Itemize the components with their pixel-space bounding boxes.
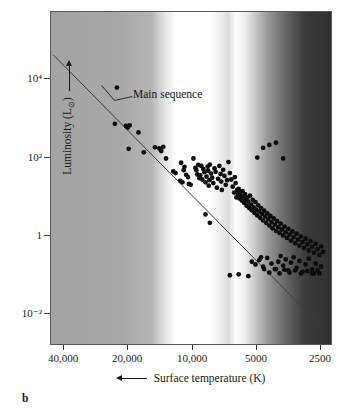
- x-axis-tick: [256, 345, 257, 350]
- x-axis-tick-label: 20,000: [112, 352, 142, 364]
- star-data-point: [159, 149, 164, 154]
- star-data-point: [274, 140, 279, 145]
- star-data-point: [233, 181, 238, 186]
- star-data-point: [227, 171, 232, 176]
- star-data-point: [211, 181, 216, 186]
- star-data-point: [233, 175, 238, 180]
- star-data-point: [289, 260, 294, 265]
- y-axis-tick: [44, 78, 50, 79]
- arrow-up-icon: [69, 61, 70, 91]
- star-data-point: [272, 267, 277, 272]
- star-data-point: [207, 162, 212, 167]
- star-data-point: [286, 226, 291, 231]
- y-axis-tick: [44, 157, 50, 158]
- x-axis-title-group: Surface temperature (K): [50, 372, 332, 384]
- star-data-point: [191, 156, 196, 161]
- star-data-point: [299, 234, 304, 239]
- main-sequence-annotation-label: Main sequence: [133, 88, 202, 100]
- x-axis-tick-label: 40,000: [48, 352, 78, 364]
- hr-diagram-figure: 10⁴10²110⁻² Luminosity (L⊙) 40,00020,000…: [0, 0, 348, 411]
- star-data-point: [317, 253, 322, 258]
- star-data-point: [294, 231, 299, 236]
- star-data-point: [282, 267, 287, 272]
- star-data-point: [259, 255, 264, 260]
- star-data-point: [179, 160, 184, 165]
- star-data-point: [127, 123, 132, 128]
- star-data-point: [312, 250, 317, 255]
- star-data-point: [115, 85, 120, 90]
- star-data-point: [276, 259, 281, 264]
- star-data-point: [198, 173, 203, 178]
- plot-svg: [51, 12, 331, 344]
- star-data-point: [310, 267, 315, 272]
- star-data-point: [253, 262, 258, 267]
- star-data-point: [281, 156, 286, 161]
- star-data-point: [290, 229, 295, 234]
- star-data-point: [313, 241, 318, 246]
- star-data-point: [219, 179, 224, 184]
- star-data-point: [217, 164, 222, 169]
- star-data-point: [303, 262, 308, 267]
- star-data-point: [152, 145, 157, 150]
- star-data-point: [203, 212, 208, 217]
- star-data-point: [173, 171, 178, 176]
- star-data-point: [319, 264, 324, 269]
- star-data-point: [221, 167, 226, 172]
- y-axis-title-group: Luminosity (L⊙): [61, 48, 77, 188]
- star-data-point: [315, 268, 320, 273]
- star-data-point: [281, 263, 286, 268]
- star-data-point: [310, 271, 315, 276]
- star-data-point: [302, 246, 307, 251]
- star-data-point: [267, 270, 272, 275]
- star-data-point: [164, 156, 169, 161]
- star-data-point: [287, 270, 292, 275]
- star-data-point: [112, 121, 117, 126]
- star-data-point: [305, 269, 310, 274]
- star-data-point: [299, 271, 304, 276]
- star-data-point: [267, 143, 272, 148]
- solar-symbol: ⊙: [68, 101, 77, 108]
- star-data-point: [227, 273, 232, 278]
- star-data-point: [236, 272, 241, 277]
- star-data-point: [277, 271, 282, 276]
- y-axis-title: Luminosity (L⊙): [61, 97, 76, 175]
- star-data-point: [226, 160, 231, 165]
- star-data-point: [293, 268, 298, 273]
- star-data-point: [161, 144, 166, 149]
- star-data-point: [283, 257, 288, 262]
- star-data-point: [278, 254, 283, 259]
- x-axis-tick-label: 10,000: [177, 352, 207, 364]
- star-data-point: [180, 180, 185, 185]
- star-data-point: [262, 267, 267, 272]
- star-data-point: [194, 168, 199, 173]
- x-axis-tick: [192, 345, 193, 350]
- star-data-point: [306, 256, 311, 261]
- star-data-point: [136, 130, 141, 135]
- star-data-point: [188, 182, 193, 187]
- star-data-point: [206, 183, 211, 188]
- star-data-point: [219, 188, 224, 193]
- star-data-point: [181, 168, 186, 173]
- star-data-point: [303, 236, 308, 241]
- star-data-point: [141, 150, 146, 155]
- star-data-point: [213, 169, 218, 174]
- star-points-group: [112, 85, 325, 278]
- y-axis-tick-label: 1: [0, 229, 42, 241]
- star-data-point: [210, 175, 215, 180]
- y-axis-tick-label: 10⁴: [0, 72, 42, 84]
- star-data-point: [321, 249, 326, 254]
- x-axis-tick: [63, 345, 64, 350]
- star-data-point: [261, 145, 266, 150]
- star-data-point: [297, 259, 302, 264]
- star-data-point: [209, 171, 214, 176]
- star-data-point: [222, 174, 227, 179]
- arrow-left-icon: [117, 378, 147, 379]
- y-axis-tick-label: 10⁻²: [0, 307, 42, 320]
- x-axis-tick: [127, 345, 128, 350]
- star-data-point: [248, 193, 253, 198]
- y-axis-tick: [44, 235, 50, 236]
- star-data-point: [265, 256, 270, 261]
- star-data-point: [223, 182, 228, 187]
- star-data-point: [308, 239, 313, 244]
- x-axis-tick: [320, 345, 321, 350]
